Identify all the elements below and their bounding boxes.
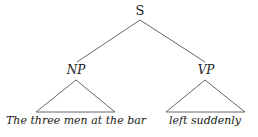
edge-s-vp <box>140 20 205 62</box>
syntax-tree-diagram: S NP VP The three men at the bar left su… <box>0 0 258 137</box>
node-np: NP <box>67 64 86 76</box>
node-s: S <box>136 4 145 17</box>
np-triangle <box>36 80 115 112</box>
leaf-vp-text: left suddenly <box>169 115 241 126</box>
edge-s-np <box>77 20 140 62</box>
leaf-np-text: The three men at the bar <box>6 115 146 126</box>
node-vp: VP <box>198 64 215 76</box>
vp-triangle <box>166 80 245 112</box>
